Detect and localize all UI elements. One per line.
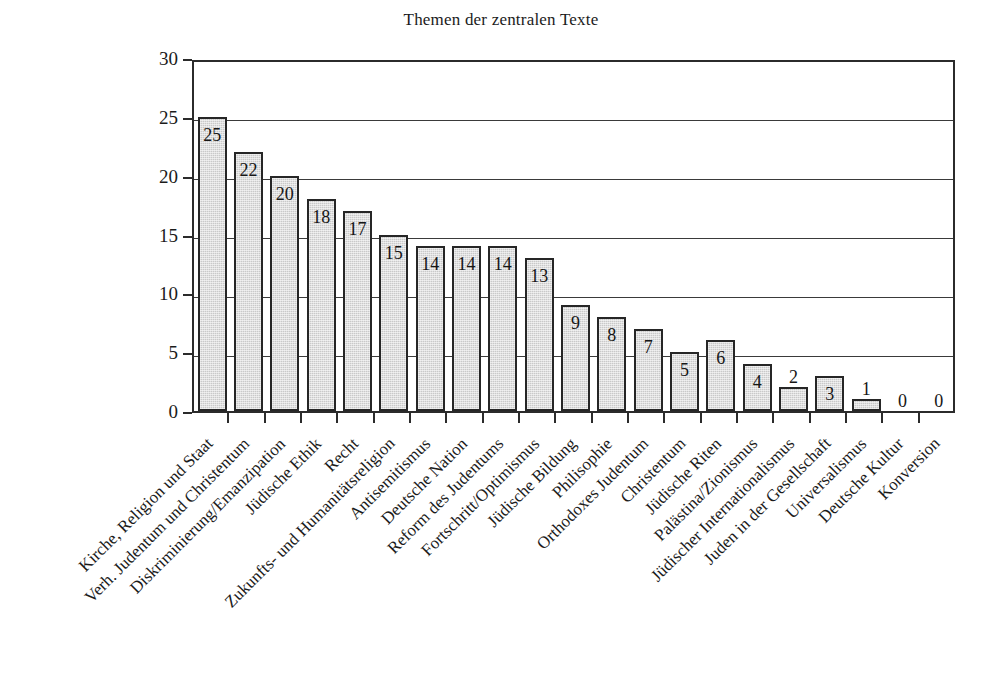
x-tick-mark <box>663 413 665 423</box>
y-tick-mark-0 <box>183 412 192 414</box>
bar[interactable] <box>634 329 663 411</box>
x-tick-mark <box>736 413 738 423</box>
bar[interactable] <box>561 305 590 411</box>
y-tick-mark-25 <box>183 118 192 120</box>
bar[interactable] <box>743 364 772 411</box>
gridline-20 <box>194 179 953 180</box>
bar[interactable] <box>706 340 735 411</box>
x-tick-mark <box>918 413 920 423</box>
bar[interactable] <box>670 352 699 411</box>
plot-area: 2522201817151414141398756423100 <box>192 60 955 413</box>
x-tick-mark <box>445 413 447 423</box>
bar-value-label: 2 <box>779 367 808 388</box>
x-tick-mark <box>845 413 847 423</box>
y-tick-label-30: 30 <box>159 48 178 70</box>
x-tick-mark <box>264 413 266 423</box>
bar[interactable] <box>379 235 408 412</box>
x-tick-mark <box>700 413 702 423</box>
x-tick-mark <box>482 413 484 423</box>
bar[interactable] <box>307 199 336 411</box>
x-tick-mark <box>409 413 411 423</box>
x-tick-mark <box>227 413 229 423</box>
y-tick-label-10: 10 <box>159 283 178 305</box>
y-tick-label-25: 25 <box>159 107 178 129</box>
y-tick-mark-5 <box>183 353 192 355</box>
x-tick-mark <box>554 413 556 423</box>
bar-chart: Themen der zentralen Texte 051015202530 … <box>0 0 1002 674</box>
x-tick-mark <box>300 413 302 423</box>
x-tick-mark <box>336 413 338 423</box>
x-axis-label[interactable]: Verh. Judentum und Christentum <box>80 434 253 607</box>
bar-value-label: 0 <box>888 391 917 412</box>
bar[interactable] <box>779 387 808 411</box>
gridline-25 <box>194 120 953 121</box>
y-tick-label-5: 5 <box>169 342 179 364</box>
bar[interactable] <box>815 376 844 411</box>
bar[interactable] <box>525 258 554 411</box>
x-tick-mark <box>881 413 883 423</box>
y-tick-mark-30 <box>183 59 192 61</box>
bar[interactable] <box>270 176 299 411</box>
x-tick-mark <box>772 413 774 423</box>
y-tick-mark-15 <box>183 236 192 238</box>
y-tick-label-0: 0 <box>169 401 179 423</box>
y-tick-label-15: 15 <box>159 225 178 247</box>
y-tick-mark-20 <box>183 177 192 179</box>
bar[interactable] <box>234 152 263 411</box>
x-tick-mark <box>518 413 520 423</box>
bar-value-label: 1 <box>852 379 881 400</box>
bar[interactable] <box>416 246 445 411</box>
x-tick-mark <box>591 413 593 423</box>
bar-value-label: 0 <box>924 391 953 412</box>
bar[interactable] <box>597 317 626 411</box>
x-tick-mark <box>809 413 811 423</box>
bar[interactable] <box>452 246 481 411</box>
chart-title: Themen der zentralen Texte <box>0 10 1002 30</box>
x-tick-mark <box>373 413 375 423</box>
bar[interactable] <box>852 399 881 411</box>
bar[interactable] <box>343 211 372 411</box>
x-tick-mark <box>627 413 629 423</box>
y-tick-label-20: 20 <box>159 166 178 188</box>
y-tick-mark-10 <box>183 294 192 296</box>
bar[interactable] <box>198 117 227 411</box>
bar[interactable] <box>488 246 517 411</box>
